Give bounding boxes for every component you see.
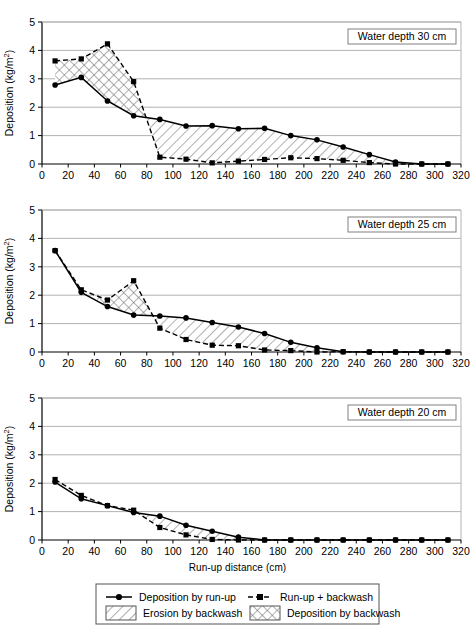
marker-circle-deposition-by-run-up <box>52 248 58 254</box>
marker-circle-deposition-by-run-up <box>236 534 242 540</box>
legend-marker-circle <box>116 594 122 600</box>
x-tick-label-200: 200 <box>295 169 313 181</box>
y-tick-label-0: 0 <box>29 534 35 546</box>
x-tick-label-280: 280 <box>400 545 418 557</box>
marker-circle-deposition-by-run-up <box>183 123 189 129</box>
x-tick-label-120: 120 <box>190 169 208 181</box>
x-tick-label-180: 180 <box>269 545 287 557</box>
marker-square-run-up-plus-backwash <box>183 157 188 162</box>
x-tick-label-300: 300 <box>426 545 444 557</box>
marker-circle-deposition-by-run-up <box>367 152 373 158</box>
x-tick-label-20: 20 <box>62 169 74 181</box>
chart-legend: Deposition by run-upRun-up + backwashEro… <box>0 580 475 633</box>
x-tick-label-100: 100 <box>164 169 182 181</box>
x-tick-label-100: 100 <box>164 357 182 369</box>
marker-square-run-up-plus-backwash <box>105 41 110 46</box>
marker-circle-deposition-by-run-up <box>131 113 137 119</box>
marker-square-run-up-plus-backwash <box>157 326 162 331</box>
x-tick-label-80: 80 <box>141 545 153 557</box>
x-tick-label-120: 120 <box>190 357 208 369</box>
y-tick-label-3: 3 <box>29 449 35 461</box>
marker-circle-deposition-by-run-up <box>340 144 346 150</box>
marker-circle-deposition-by-run-up <box>78 290 84 296</box>
legend-svg: Deposition by run-upRun-up + backwashEro… <box>0 580 475 633</box>
x-tick-label-140: 140 <box>217 169 235 181</box>
y-tick-label-5: 5 <box>29 392 35 404</box>
marker-circle-deposition-by-run-up <box>183 315 189 321</box>
x-tick-label-280: 280 <box>400 357 418 369</box>
marker-square-run-up-plus-backwash <box>131 278 136 283</box>
x-tick-label-280: 280 <box>400 169 418 181</box>
marker-circle-deposition-by-run-up <box>209 123 215 129</box>
legend-swatch-cross-hatch <box>250 606 280 620</box>
marker-square-run-up-plus-backwash <box>262 157 267 162</box>
x-axis-title: Run-up distance (cm) <box>0 562 475 573</box>
x-tick-label-140: 140 <box>217 545 235 557</box>
legend-label-erosion-by-backwash: Erosion by backwash <box>143 607 242 619</box>
panel-title-text: Water depth 30 cm <box>358 30 447 42</box>
marker-square-run-up-plus-backwash <box>314 156 319 161</box>
legend-label-deposition-by-run-up: Deposition by run-up <box>139 591 236 603</box>
chart-svg-panel-30cm: 0123450204060801001201401601802002202402… <box>0 0 475 188</box>
x-tick-label-0: 0 <box>39 545 45 557</box>
marker-square-run-up-plus-backwash <box>52 58 57 63</box>
y-axis-title: Deposition (kg/m2) <box>2 426 16 512</box>
x-tick-label-160: 160 <box>243 357 261 369</box>
y-tick-label-2: 2 <box>29 101 35 113</box>
x-tick-label-100: 100 <box>164 545 182 557</box>
y-tick-label-0: 0 <box>29 158 35 170</box>
marker-circle-deposition-by-run-up <box>157 513 163 519</box>
legend-entry-erosion-by-backwash: Erosion by backwash <box>106 606 242 620</box>
panel-title-text: Water depth 25 cm <box>358 218 447 230</box>
marker-square-run-up-plus-backwash <box>157 525 162 530</box>
marker-circle-deposition-by-run-up <box>183 522 189 528</box>
y-tick-label-4: 4 <box>29 420 35 432</box>
legend-entry-deposition-by-backwash: Deposition by backwash <box>250 606 400 620</box>
legend-marker-square <box>257 594 263 600</box>
x-tick-label-220: 220 <box>321 545 339 557</box>
marker-circle-deposition-by-run-up <box>314 345 320 351</box>
marker-circle-deposition-by-run-up <box>78 75 84 81</box>
marker-square-run-up-plus-backwash <box>288 155 293 160</box>
marker-circle-deposition-by-run-up <box>131 312 137 318</box>
marker-circle-deposition-by-run-up <box>288 340 294 346</box>
marker-square-run-up-plus-backwash <box>236 343 241 348</box>
x-tick-label-260: 260 <box>374 357 392 369</box>
marker-square-run-up-plus-backwash <box>157 155 162 160</box>
y-tick-label-5: 5 <box>29 204 35 216</box>
marker-circle-deposition-by-run-up <box>209 528 215 534</box>
marker-square-run-up-plus-backwash <box>131 79 136 84</box>
x-tick-label-160: 160 <box>243 545 261 557</box>
marker-square-run-up-plus-backwash <box>236 159 241 164</box>
x-tick-label-80: 80 <box>141 169 153 181</box>
x-tick-label-160: 160 <box>243 169 261 181</box>
y-tick-label-2: 2 <box>29 477 35 489</box>
y-tick-label-5: 5 <box>29 16 35 28</box>
x-tick-label-300: 300 <box>426 169 444 181</box>
x-tick-label-320: 320 <box>452 357 470 369</box>
marker-circle-deposition-by-run-up <box>236 126 242 132</box>
x-tick-label-220: 220 <box>321 169 339 181</box>
x-tick-label-200: 200 <box>295 357 313 369</box>
x-tick-label-260: 260 <box>374 545 392 557</box>
x-tick-label-60: 60 <box>115 357 127 369</box>
x-tick-label-40: 40 <box>89 169 101 181</box>
chart-svg-panel-20cm: 0123450204060801001201401601802002202402… <box>0 376 475 564</box>
marker-circle-deposition-by-run-up <box>52 479 58 485</box>
figure-root: 0123450204060801001201401601802002202402… <box>0 0 475 633</box>
x-tick-label-60: 60 <box>115 169 127 181</box>
svg-text:Deposition (kg/m2): Deposition (kg/m2) <box>2 426 16 512</box>
x-tick-label-300: 300 <box>426 357 444 369</box>
x-tick-label-240: 240 <box>347 357 365 369</box>
legend-label-run-up-plus-backwash: Run-up + backwash <box>280 591 373 603</box>
x-tick-label-220: 220 <box>321 357 339 369</box>
x-tick-label-320: 320 <box>452 545 470 557</box>
y-tick-label-3: 3 <box>29 261 35 273</box>
y-tick-label-2: 2 <box>29 289 35 301</box>
chart-svg-panel-25cm: 0123450204060801001201401601802002202402… <box>0 188 475 376</box>
y-tick-label-4: 4 <box>29 232 35 244</box>
x-tick-label-0: 0 <box>39 357 45 369</box>
y-tick-label-1: 1 <box>29 317 35 329</box>
marker-square-run-up-plus-backwash <box>105 297 110 302</box>
marker-circle-deposition-by-run-up <box>314 137 320 143</box>
